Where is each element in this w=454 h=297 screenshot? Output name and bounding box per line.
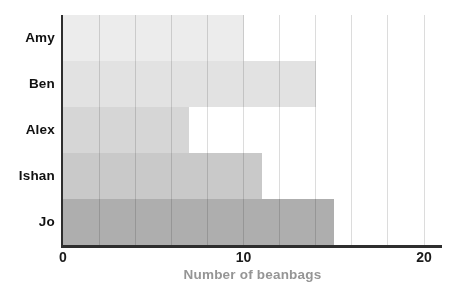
x-axis-title: Number of beanbags xyxy=(63,267,442,282)
x-axis-line xyxy=(61,245,442,248)
beanbags-bar-chart: AmyBenAlexIshanJo 01020 Number of beanba… xyxy=(0,0,454,297)
gridline-6 xyxy=(171,15,172,245)
category-label-amy: Amy xyxy=(0,15,55,61)
gridline-8 xyxy=(207,15,208,245)
category-label-ben: Ben xyxy=(0,61,55,107)
gridlines-layer xyxy=(63,15,442,245)
category-label-alex: Alex xyxy=(0,107,55,153)
gridline-16 xyxy=(351,15,352,245)
gridline-2 xyxy=(99,15,100,245)
y-axis-line xyxy=(61,15,63,248)
x-tick-0: 0 xyxy=(41,249,85,265)
gridline-4 xyxy=(135,15,136,245)
x-tick-20: 20 xyxy=(402,249,446,265)
gridline-12 xyxy=(279,15,280,245)
category-label-jo: Jo xyxy=(0,199,55,245)
x-tick-10: 10 xyxy=(222,249,266,265)
plot-area xyxy=(63,15,442,245)
gridline-14 xyxy=(315,15,316,245)
gridline-18 xyxy=(387,15,388,245)
gridline-10 xyxy=(243,15,244,245)
category-label-ishan: Ishan xyxy=(0,153,55,199)
gridline-20 xyxy=(424,15,425,245)
